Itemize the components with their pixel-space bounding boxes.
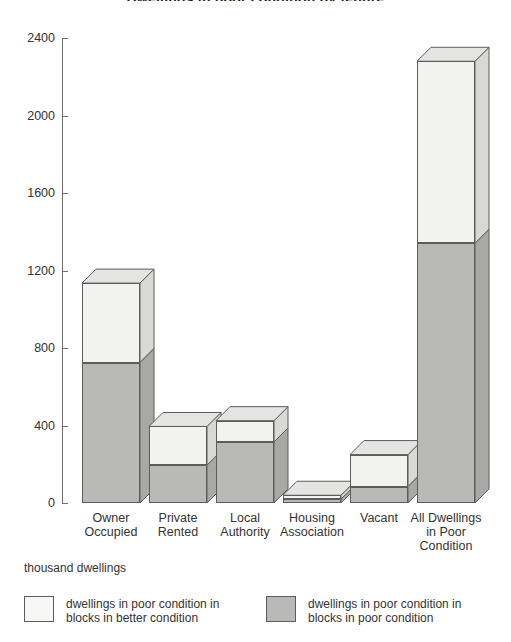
x-label-6-line-3: Condition bbox=[391, 539, 501, 553]
legend-item-poor: dwellings in poor condition in blocks in… bbox=[266, 596, 461, 625]
bar-segment-poor-6[interactable] bbox=[417, 243, 475, 503]
legend-swatch-dark-icon bbox=[266, 596, 296, 622]
bar-side-light-6 bbox=[475, 47, 489, 243]
bar-segment-better-6[interactable] bbox=[417, 61, 475, 243]
legend-label-better-line2: blocks in better condition bbox=[66, 611, 219, 625]
x-label-6-line-2: in Poor bbox=[391, 525, 501, 539]
x-label-6: All Dwellingsin PoorCondition bbox=[391, 511, 501, 553]
bar-6[interactable] bbox=[0, 0, 511, 512]
legend-label-poor-line1: dwellings in poor condition in bbox=[308, 597, 461, 611]
x-label-4-line-2: Association bbox=[257, 525, 367, 539]
legend-label-poor-line2: blocks in poor condition bbox=[308, 611, 461, 625]
legend-swatch-light-icon bbox=[24, 596, 54, 622]
legend-item-better: dwellings in poor condition in blocks in… bbox=[24, 596, 219, 625]
bar-side-dark-6 bbox=[475, 229, 489, 503]
legend-label-better-line1: dwellings in poor condition in bbox=[66, 597, 219, 611]
chart-container: Dwellings in poor condition by tenure 24… bbox=[0, 0, 511, 642]
plot-area: 2400 2000 1600 1200 800 400 0 OwnerOccup… bbox=[0, 0, 511, 512]
axis-caption: thousand dwellings bbox=[24, 561, 126, 575]
chart-legend: dwellings in poor condition in blocks in… bbox=[24, 596, 494, 636]
x-label-6-line-1: All Dwellings bbox=[391, 511, 501, 525]
